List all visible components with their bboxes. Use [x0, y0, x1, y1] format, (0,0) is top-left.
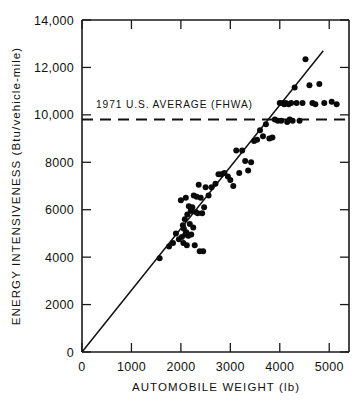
data-point: [183, 195, 189, 201]
y-tick-label: 14,000: [34, 14, 74, 28]
data-point: [227, 177, 233, 183]
data-point: [321, 100, 327, 106]
y-tick-label: 12,000: [34, 61, 74, 75]
data-point: [173, 230, 179, 236]
data-point: [257, 127, 263, 133]
data-point: [198, 195, 204, 201]
chart-canvas: 0200040006000800010,00012,00014,000 0100…: [0, 0, 361, 408]
y-tick-label: 4000: [45, 251, 74, 265]
data-point: [184, 242, 190, 248]
x-tick-label: 3000: [216, 360, 245, 374]
data-point: [233, 147, 239, 153]
data-point: [245, 168, 251, 174]
data-point: [334, 101, 340, 107]
data-point: [263, 121, 269, 127]
data-point: [196, 182, 202, 188]
data-point: [203, 184, 209, 190]
data-point: [157, 255, 163, 261]
data-point: [199, 210, 205, 216]
data-points-group: [157, 56, 340, 261]
y-tick-label: 8000: [45, 156, 74, 170]
y-tick-label: 6000: [45, 203, 74, 217]
data-point: [188, 232, 194, 238]
data-point: [248, 159, 254, 165]
x-tick-label: 5000: [315, 360, 344, 374]
y-axis-title: ENERGY INTENSIVENESS (Btu/vehicle-mile): [10, 47, 22, 326]
data-point: [297, 118, 303, 124]
data-point: [213, 181, 219, 187]
data-point: [269, 134, 275, 140]
data-point: [260, 133, 266, 139]
data-point: [290, 118, 296, 124]
x-tick-label: 2000: [166, 360, 195, 374]
y-tick-labels-group: 0200040006000800010,00012,00014,000: [34, 14, 74, 360]
x-tick-label: 0: [78, 360, 85, 374]
data-point: [306, 82, 312, 88]
data-point: [292, 85, 298, 91]
data-point: [239, 147, 245, 153]
data-point: [302, 56, 308, 62]
data-point: [294, 100, 300, 106]
x-axis-title: AUTOMOBILE WEIGHT (lb): [132, 381, 300, 393]
data-point: [201, 204, 207, 210]
data-point: [206, 192, 212, 198]
data-point: [288, 100, 294, 106]
regression-fit-line: [82, 51, 323, 352]
data-point: [300, 100, 306, 106]
data-point: [278, 118, 284, 124]
data-point: [200, 248, 206, 254]
data-point: [242, 158, 248, 164]
data-point: [170, 240, 176, 246]
y-tick-label: 2000: [45, 298, 74, 312]
scatter-plot-figure: 0200040006000800010,00012,00014,000 0100…: [0, 0, 361, 408]
x-tick-labels-group: 010002000300040005000: [78, 360, 343, 374]
y-tick-label: 10,000: [34, 108, 74, 122]
data-point: [254, 137, 260, 143]
data-point: [190, 225, 196, 231]
data-point: [236, 170, 242, 176]
fit-line-group: [82, 51, 323, 352]
y-tick-label: 0: [67, 346, 74, 360]
data-point: [192, 242, 198, 248]
x-tick-label: 4000: [265, 360, 294, 374]
x-tick-label: 1000: [117, 360, 146, 374]
data-point: [230, 183, 236, 189]
reference-line-label: 1971 U.S. AVERAGE (FHWA): [96, 99, 253, 110]
data-point: [312, 101, 318, 107]
data-point: [316, 81, 322, 87]
